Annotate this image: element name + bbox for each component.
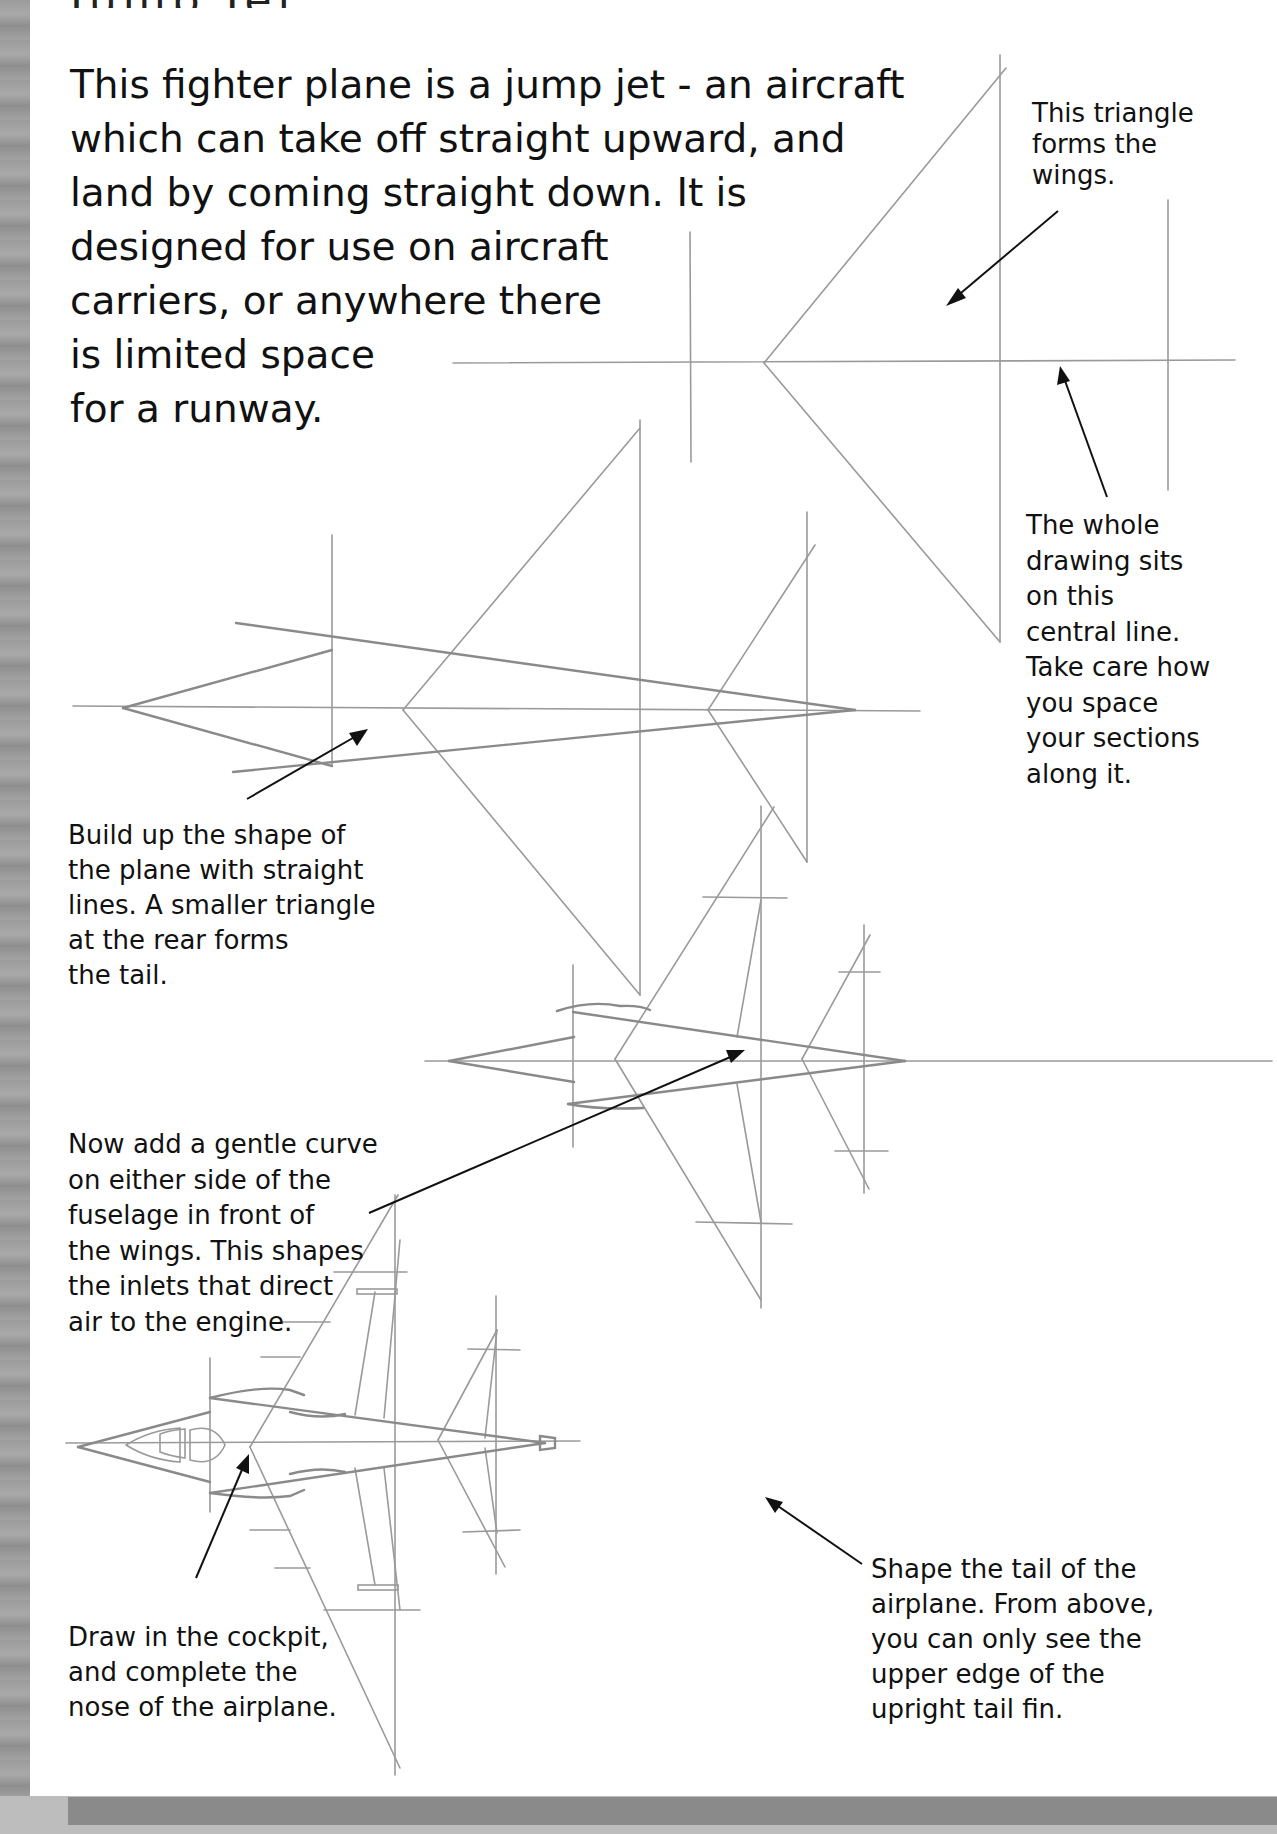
note-cockpit: Draw in the cockpit, and complete the no…	[68, 1620, 337, 1725]
note-wings: This triangle forms the wings.	[1032, 98, 1194, 191]
step-3-intake-curves	[425, 806, 1272, 1308]
arrowhead-icon	[765, 1497, 783, 1513]
note-build-up: Build up the shape of the plane with str…	[68, 818, 376, 993]
note-central-line: The whole drawing sits on this central l…	[1026, 508, 1210, 792]
note-tail: Shape the tail of the airplane. From abo…	[871, 1552, 1154, 1727]
arrowhead-icon	[349, 729, 368, 746]
arrowhead-icon	[236, 1454, 249, 1474]
arrowhead-icon	[1057, 366, 1070, 385]
note-inlets: Now add a gentle curve on either side of…	[68, 1127, 378, 1340]
